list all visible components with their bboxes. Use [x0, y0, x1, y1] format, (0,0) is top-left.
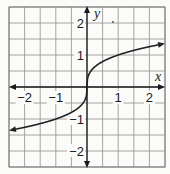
x-tick-label: −2	[17, 90, 32, 105]
y-tick-label: 1	[77, 48, 84, 63]
curve-left-arrow-icon	[9, 126, 16, 132]
y-axis-label: y	[92, 6, 101, 21]
x-tick-label: 2	[146, 90, 153, 105]
x-axis-right-arrow-icon	[158, 84, 165, 90]
x-tick-label: 1	[115, 90, 122, 105]
y-tick-label: 2	[77, 16, 84, 31]
y-tick-label: −2	[69, 144, 84, 159]
x-axis-left-arrow-icon	[9, 84, 16, 90]
speck-mark	[112, 21, 114, 23]
cube-root-graph: y x −2−112 21−1−2	[0, 0, 170, 174]
curve-right-arrow-icon	[158, 42, 165, 48]
y-tick-label: −1	[69, 112, 84, 127]
x-axis-label: x	[154, 69, 162, 84]
x-tick-label: −1	[48, 90, 63, 105]
